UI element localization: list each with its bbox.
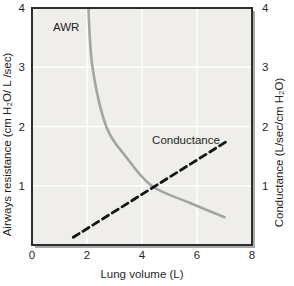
y-tick-labels-right: 4321 [262, 2, 269, 192]
annotation-awr: AWR [53, 21, 79, 33]
y-tick-label-right: 4 [262, 2, 269, 14]
y-tick-labels-left: 4321 [19, 2, 26, 192]
y-tick-label-left: 4 [19, 2, 26, 14]
x-tick-label: 4 [139, 249, 146, 261]
x-tick-label: 0 [29, 249, 35, 261]
y-tick-label-left: 2 [19, 121, 25, 133]
y-tick-label-right: 2 [262, 121, 268, 133]
x-axis-label: Lung volume (L) [100, 268, 183, 280]
annotation-conductance: Conductance [152, 134, 220, 146]
y-tick-label-left: 1 [19, 180, 25, 192]
y-tick-label-right: 3 [262, 61, 268, 73]
chart: AWRConductance 02468 4321 4321 Lung volu… [0, 0, 294, 286]
x-tick-label: 6 [194, 249, 200, 261]
x-tick-label: 8 [249, 249, 255, 261]
y-axis-label-left: Airways resistance (cm H₂O/ L /sec) [1, 53, 13, 237]
figure: AWRConductance 02468 4321 4321 Lung volu… [0, 0, 294, 286]
y-tick-label-right: 1 [262, 180, 268, 192]
y-axis-label-right: Conductance (L/sec/cm H₂O) [273, 78, 285, 228]
x-tick-labels: 02468 [29, 249, 255, 261]
y-tick-label-left: 3 [19, 61, 25, 73]
x-tick-label: 2 [84, 249, 90, 261]
